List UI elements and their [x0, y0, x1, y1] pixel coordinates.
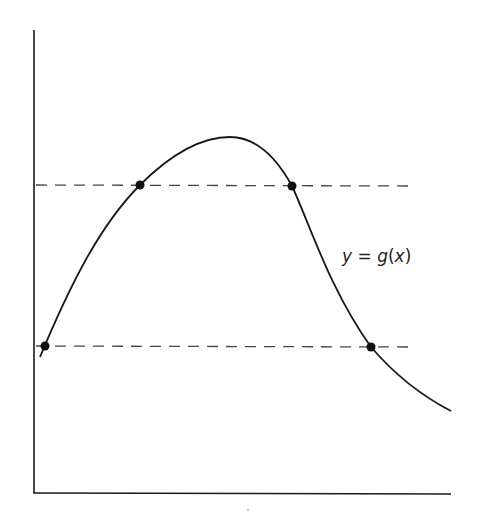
lower-right-point [367, 343, 376, 352]
lower-horizontal-line [36, 346, 408, 347]
curve-label: y = g(x) [341, 246, 411, 266]
x-axis [33, 493, 451, 494]
graph-diagram: y = g(x) [0, 0, 478, 521]
upper-left-point [136, 181, 145, 190]
lower-left-point [41, 342, 50, 351]
upper-right-point [288, 182, 297, 191]
upper-horizontal-line [36, 185, 408, 186]
curve-g [40, 137, 451, 411]
stray-dot [247, 509, 249, 511]
